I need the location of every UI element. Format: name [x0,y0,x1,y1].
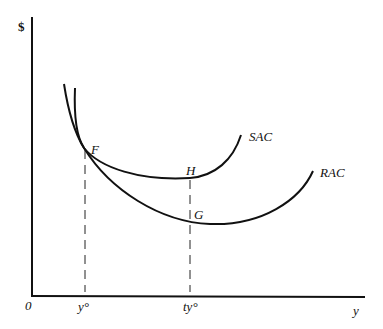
sac-label: SAC [249,130,272,143]
rac-curve [64,84,313,224]
origin-label: 0 [25,299,32,312]
rac-label: RAC [320,166,345,179]
x-axis-label: y [353,304,359,317]
x-axis [31,296,365,297]
tick-y0-label: y° [78,300,89,313]
y-axis-label: $ [18,20,25,33]
point-h-label: H [186,164,195,177]
tick-ty0-label: ty° [183,300,198,313]
point-g-label: G [194,208,203,221]
sac-curve [75,88,241,178]
point-f-label: F [91,143,99,156]
cost-curves-diagram: $ 0 y° ty° y F H G SAC RAC [0,0,383,329]
